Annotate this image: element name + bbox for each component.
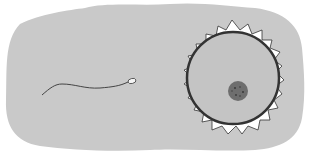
egg-nucleus [228,81,248,101]
fertilization-illustration [0,0,311,157]
egg-membrane [187,32,279,124]
